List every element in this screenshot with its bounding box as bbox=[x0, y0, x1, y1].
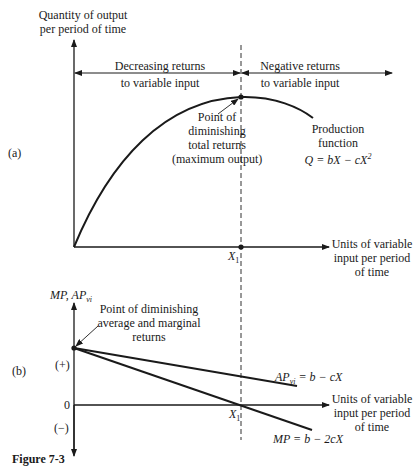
curve-equation-sup: 2 bbox=[367, 152, 371, 161]
x-label-line2: input per period bbox=[330, 251, 414, 265]
peak-note: Point of diminishing total returns (maxi… bbox=[172, 110, 262, 166]
region-right-label: Negative returns to variable input bbox=[250, 59, 350, 90]
minus-sign: (−) bbox=[54, 421, 69, 435]
figure-caption: Figure 7-3 bbox=[12, 452, 65, 466]
region-left-line1: Decreasing returns bbox=[100, 59, 220, 73]
plus-sign: (+) bbox=[55, 358, 70, 372]
y-label-line2: per period of time bbox=[28, 22, 138, 36]
panel-b-label: (b) bbox=[12, 364, 26, 378]
ap-label-eq: = b − cX bbox=[295, 370, 342, 384]
panel-a-y-axis-label: Quantity of output per period of time bbox=[28, 8, 138, 36]
y-label-main: MP, AP bbox=[50, 288, 86, 302]
panel-b-y-axis-label: MP, APvi bbox=[50, 288, 92, 307]
peak-note-line1: Point of bbox=[172, 110, 262, 124]
panel-a-x-axis-label: Units of variable input per period of ti… bbox=[330, 237, 414, 279]
ap-line bbox=[74, 348, 297, 386]
zero-tick: 0 bbox=[64, 398, 70, 412]
intercept-note-line2: average and marginal bbox=[94, 316, 204, 330]
intercept-note-line1: Point of diminishing bbox=[94, 302, 204, 316]
peak-note-line4: (maximum output) bbox=[172, 152, 262, 166]
x-label-b-line1: Units of variable bbox=[330, 392, 414, 406]
intercept-point bbox=[71, 345, 76, 350]
curve-equation: Q = bX − cX2 bbox=[293, 150, 383, 167]
ap-label-main: AP bbox=[275, 370, 290, 384]
intercept-note-line3: returns bbox=[94, 330, 204, 344]
mp-label: MP = b − 2cX bbox=[273, 432, 343, 446]
region-right-line2: to variable input bbox=[250, 76, 350, 90]
peak-note-line3: total returns bbox=[172, 138, 262, 152]
x-label-b-line2: input per period bbox=[330, 406, 414, 420]
curve-label-line1: Production bbox=[293, 122, 383, 136]
curve-equation-text: Q = bX − cX bbox=[305, 153, 368, 167]
panel-b-x1-tick: X1 bbox=[229, 407, 240, 426]
panel-b-x-axis-label: Units of variable input per period of ti… bbox=[330, 392, 414, 434]
x1-tick-sub-b: 1 bbox=[236, 414, 240, 423]
peak-point bbox=[238, 94, 243, 99]
region-right-line1: Negative returns bbox=[250, 59, 350, 73]
y-label-sub: vi bbox=[86, 295, 92, 304]
ap-label: APvi = b − cX bbox=[275, 370, 342, 389]
x-label-line3: of time bbox=[330, 265, 414, 279]
production-function-label: Production function Q = bX − cX2 bbox=[293, 122, 383, 167]
intercept-note: Point of diminishing average and margina… bbox=[94, 302, 204, 344]
x-label-line1: Units of variable bbox=[330, 237, 414, 251]
region-left-line2: to variable input bbox=[100, 76, 220, 90]
region-left-label: Decreasing returns to variable input bbox=[100, 59, 220, 90]
x1-tick-sub: 1 bbox=[235, 256, 239, 265]
curve-label-line2: function bbox=[293, 136, 383, 150]
panel-a-x1-tick: X1 bbox=[228, 249, 239, 268]
peak-note-line2: diminishing bbox=[172, 124, 262, 138]
panel-a-label: (a) bbox=[8, 146, 21, 160]
y-label-line1: Quantity of output bbox=[28, 8, 138, 22]
